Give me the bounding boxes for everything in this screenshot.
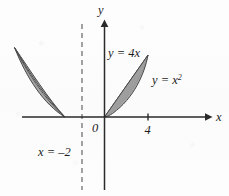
label-x-equals-minus-2: x = –2 (37, 145, 71, 159)
x-axis-label: x (215, 110, 222, 124)
y-axis-label: y (96, 3, 104, 17)
parabola-label-exponent: 2 (178, 73, 182, 82)
y-axis-arrowhead (101, 20, 109, 28)
parabola-label-base: y = x (150, 73, 178, 87)
origin-label: 0 (92, 121, 99, 135)
shaded-region-right-lens-body (105, 55, 149, 117)
label-parabola-y-equals-x-squared: y = x2 (150, 73, 182, 88)
label-line-y-equals-4x: y = 4x (106, 46, 140, 60)
x-axis-arrowhead (205, 113, 213, 121)
graph-figure: y x 0 4 y = 4x y = x2 x = –2 (0, 0, 229, 196)
shaded-region-left-lens (15, 48, 65, 117)
svg-text:y = x2: y = x2 (150, 73, 182, 88)
x-tick-label-4: 4 (145, 123, 151, 137)
